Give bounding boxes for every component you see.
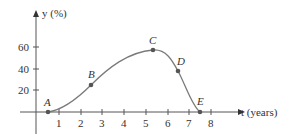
- x-tick-2: 2: [78, 117, 84, 129]
- x-tick-1: 1: [56, 117, 62, 129]
- x-tick-5: 5: [143, 117, 149, 129]
- chart: y (%) t (years) 20 40 60 1 2 3 4 5 6 7 8: [0, 0, 288, 139]
- x-tick-3: 3: [99, 117, 105, 129]
- y-tick-20: 20: [18, 84, 30, 96]
- point-c-label: C: [149, 34, 157, 46]
- point-d: [176, 69, 181, 74]
- x-tick-7: 7: [186, 117, 192, 129]
- x-axis-label: t (years): [241, 106, 278, 119]
- x-tick-8: 8: [208, 117, 214, 129]
- point-a: [46, 110, 51, 115]
- x-tick-6: 6: [165, 117, 171, 129]
- point-a-label: A: [43, 96, 51, 108]
- point-d-label: D: [176, 55, 185, 67]
- point-c: [151, 48, 156, 53]
- point-e: [198, 110, 203, 115]
- point-e-label: E: [196, 95, 204, 107]
- y-tick-60: 60: [18, 41, 30, 53]
- x-tick-4: 4: [121, 117, 127, 129]
- y-axis-arrow-icon: [33, 10, 39, 17]
- y-tick-40: 40: [18, 63, 30, 75]
- y-axis-label: y (%): [42, 7, 67, 20]
- point-b: [89, 83, 94, 88]
- point-b-label: B: [88, 68, 95, 80]
